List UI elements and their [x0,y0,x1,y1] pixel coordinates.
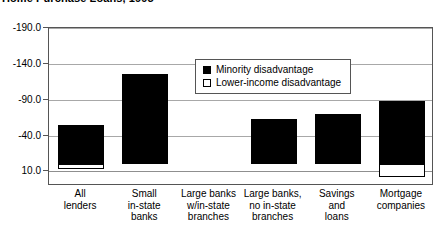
x-tick-label: Savingsandloans [305,188,369,223]
y-tick-label: -140.0 [13,58,41,69]
x-tick-label: Large banks,no in-statebranches [241,188,305,223]
bar-minority-disadvantage [315,114,361,164]
bar-group [370,28,434,184]
bar-group [242,28,306,184]
y-tick-label: -40.0 [18,130,41,141]
x-tick-label: Alllenders [48,188,112,211]
legend-item-minority: Minority disadvantage [203,63,341,76]
y-tick-label: -90.0 [18,94,41,105]
bar-minority-disadvantage [379,101,425,164]
y-tick-label: -190.0 [13,22,41,33]
y-tick-label: 10.0 [22,165,41,176]
legend-item-lower-income: Lower-income disadvantage [203,76,341,89]
bar-group [306,28,370,184]
legend-swatch-filled-square-icon [203,66,211,74]
x-axis: AlllendersSmallin-statebanksLarge banksw… [48,188,433,237]
plot-area: Minority disadvantage Lower-income disad… [48,27,433,185]
bar-group [49,28,113,184]
legend-label: Lower-income disadvantage [216,77,341,88]
y-axis: -190.0 -140.0 -90.0 -40.0 10.0 [0,27,48,185]
bar-lower-income-disadvantage [58,164,104,169]
x-tick-label: Mortgagecompanies [369,188,433,211]
x-tick-label: Large banksw/in-statebranches [176,188,240,223]
chart-title: Home Purchase Loans, 1995 [2,0,154,4]
bar-minority-disadvantage [122,74,168,163]
bar-lower-income-disadvantage [379,164,425,177]
legend-swatch-hollow-square-icon [203,79,211,87]
bar-group [177,28,241,184]
chart-figure: Home Purchase Loans, 1995 -190.0 -140.0 … [0,0,437,237]
bar-group [113,28,177,184]
legend-label: Minority disadvantage [216,64,313,75]
x-tick-label: Smallin-statebanks [112,188,176,223]
bar-minority-disadvantage [58,125,104,164]
bar-minority-disadvantage [251,119,297,164]
chart-legend: Minority disadvantage Lower-income disad… [195,59,351,94]
